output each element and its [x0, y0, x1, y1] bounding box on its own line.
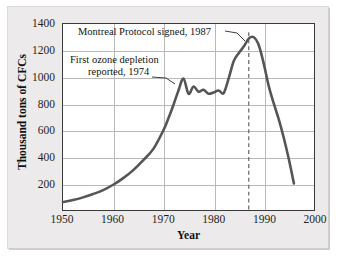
x-axis-title: Year: [62, 229, 315, 241]
annotation-ozone-line1: First ozone depletion: [70, 54, 159, 65]
annotation-ozone-line2: reported, 1974: [70, 66, 159, 78]
x-tick-1970: 1970: [152, 213, 175, 225]
montreal-leader-line: [225, 31, 245, 41]
annotation-first-ozone-depletion: First ozone depletion reported, 1974: [70, 54, 159, 79]
x-tick-1950: 1950: [51, 213, 74, 225]
x-tick-1960: 1960: [101, 213, 124, 225]
annotation-montreal-protocol: Montreal Protocol signed, 1987: [78, 26, 211, 38]
x-tick-1990: 1990: [253, 213, 276, 225]
chart-figure: Thousand tons of CFCs 1400 1200 1000 800…: [0, 0, 343, 266]
x-tick-2000: 2000: [304, 213, 327, 225]
x-tick-1980: 1980: [202, 213, 225, 225]
